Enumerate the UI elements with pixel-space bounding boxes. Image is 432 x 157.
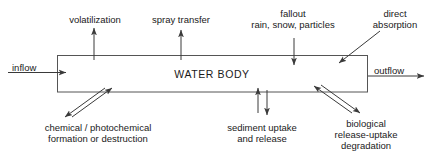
fallout-label-line1: fallout [280, 8, 305, 19]
biological-label-line2: release-uptake [335, 129, 398, 140]
direct-absorption-arrow [339, 31, 380, 63]
water-body-label: WATER BODY [174, 68, 249, 80]
direct-absorption-label-line1: direct [383, 8, 406, 19]
chemical-label-line2: formation or destruction [48, 133, 148, 144]
biological-label-line1: biological [346, 118, 386, 129]
spray-transfer-label: spray transfer [152, 14, 210, 25]
sediment-label-line2: and release [237, 133, 287, 144]
biological-label-line3: degradation [341, 140, 391, 151]
volatilization-label: volatilization [69, 14, 121, 25]
outflow-label: outflow [374, 65, 404, 76]
water-body-fate-diagram: WATER BODY inflow outflow volatilization… [0, 0, 432, 157]
biological-arrow-out [321, 85, 360, 113]
chemical-label-line1: chemical / photochemical [45, 122, 152, 133]
sediment-label-line1: sediment uptake [227, 122, 297, 133]
inflow-label: inflow [12, 62, 36, 73]
fallout-label-line2: rain, snow, particles [251, 19, 334, 30]
direct-absorption-label-line2: absorption [373, 19, 417, 30]
biological-arrow-in [314, 86, 352, 113]
